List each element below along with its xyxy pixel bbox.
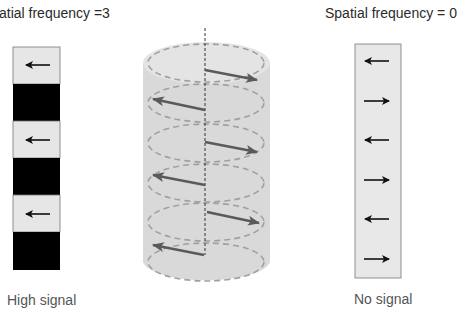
strip-segment-dark xyxy=(13,158,60,195)
right-strip xyxy=(355,44,401,278)
right-panel-caption: No signal xyxy=(354,291,412,307)
strip-background xyxy=(355,44,401,278)
strip-segment-dark xyxy=(13,232,60,270)
cylinder xyxy=(143,28,270,281)
diagram-canvas xyxy=(0,0,460,315)
left-panel-caption: High signal xyxy=(7,292,76,308)
strip-segment-dark xyxy=(13,84,60,121)
left-strip xyxy=(13,47,60,270)
